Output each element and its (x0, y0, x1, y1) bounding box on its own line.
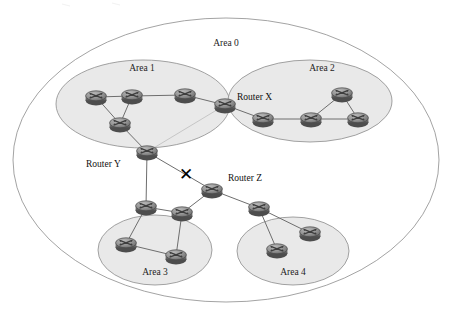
router-icon-a2r3 (332, 88, 353, 103)
diagram-canvas: Area 0Area 1Area 2Area 3Area 4Router XRo… (0, 0, 450, 318)
router-icon-routerX (215, 99, 236, 114)
router-icon-a4r3 (267, 244, 288, 259)
router-icon-a2r4 (348, 113, 369, 128)
router-icon-routerY (137, 146, 158, 161)
scan-artifact-marks (62, 3, 120, 6)
router-icon-a1r4 (110, 118, 131, 133)
link-failure-x-icon: ✕ (179, 165, 193, 184)
area-label-area2: Area 2 (309, 63, 335, 73)
area-label-area4: Area 4 (280, 267, 306, 277)
area-ellipses-layer (13, 18, 439, 302)
area-label-area3: Area 3 (142, 267, 168, 277)
network-topology-diagram: Area 0Area 1Area 2Area 3Area 4Router XRo… (0, 0, 450, 318)
router-label-routerZ: Router Z (228, 173, 262, 183)
router-icon-a2r2 (301, 113, 322, 128)
area-ellipse-area1 (56, 60, 230, 148)
area-ellipse-area0 (13, 18, 439, 302)
area-label-area0: Area 0 (213, 38, 239, 48)
router-icon-routerZ (202, 184, 223, 199)
router-label-routerY: Router Y (86, 159, 121, 169)
router-icon-a3r1 (136, 201, 157, 216)
router-icon-a4r2 (300, 227, 321, 242)
router-icon-a4r1 (249, 202, 270, 217)
router-icon-a1r2 (122, 90, 143, 105)
area-label-area1: Area 1 (129, 63, 155, 73)
router-icon-a1r3 (175, 89, 196, 104)
router-icon-a3r4 (166, 250, 187, 265)
router-icon-a1r1 (86, 91, 107, 106)
router-icon-a3r2 (172, 207, 193, 222)
router-icon-a3r3 (116, 238, 137, 253)
router-label-routerX: Router X (237, 92, 272, 102)
router-icon-a2r1 (253, 113, 274, 128)
